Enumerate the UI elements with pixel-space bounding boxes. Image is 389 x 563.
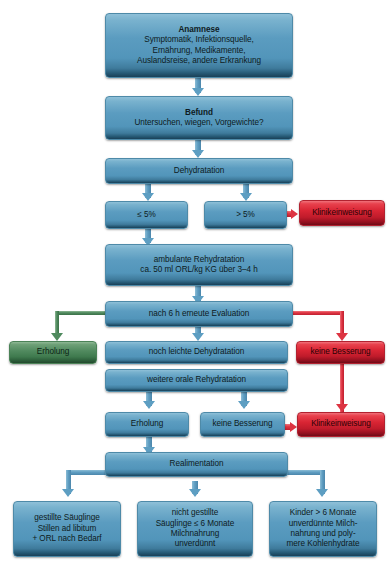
node-realimentation-label: Realimentation: [109, 459, 284, 469]
node-erholung-2[interactable]: Erholung: [105, 412, 189, 437]
node-lte5[interactable]: ≤ 5%: [105, 201, 188, 229]
node-bottom-mid-line3: Milchnahrung: [171, 529, 220, 538]
node-weitere-orale-rehydratation[interactable]: weitere orale Rehydratation: [105, 369, 288, 392]
arrowhead-dehydratation-lte5: [142, 193, 154, 201]
flowchart-canvas: Anamnese Symptomatik, Infektionsquelle, …: [0, 0, 389, 563]
node-keine-besserung-right[interactable]: keine Besserung: [296, 341, 385, 364]
node-anamnese-line1: Symptomatik, Infektionsquelle,: [144, 35, 254, 44]
node-dehydratation-label: Dehydratation: [109, 166, 289, 176]
node-bottom-left-line3: + ORL nach Bedarf: [32, 534, 101, 543]
node-nicht-gestillte-saeuglinge[interactable]: nicht gestillte Säuglinge ≤ 6 Monate Mil…: [137, 501, 253, 557]
node-klinikeinweisung-2-label: Klinikeinweisung: [301, 419, 381, 429]
node-bottom-right-line4: mere Kohlenhydrate: [287, 539, 360, 548]
arrowhead-evaluation-keinebesserung: [336, 333, 348, 341]
arrowhead-evaluation-leichte: [192, 333, 204, 341]
node-befund-heading: Befund: [185, 108, 213, 117]
node-gt5-label: > 5%: [208, 210, 283, 220]
node-bottom-right-line1: Kinder > 6 Monate: [290, 508, 356, 517]
arrowhead-anamnese-befund: [192, 88, 204, 96]
node-klinikeinweisung-2[interactable]: Klinikeinweisung: [297, 412, 385, 437]
node-bottom-mid-line4: unverdünnt: [175, 539, 215, 548]
node-befund-line1: Untersuchen, wiegen, Vorgewichte?: [135, 118, 264, 127]
node-befund[interactable]: Befund Untersuchen, wiegen, Vorgewichte?: [105, 96, 293, 140]
node-gt5[interactable]: > 5%: [204, 201, 287, 229]
arrowhead-dehydratation-gt5: [240, 193, 252, 201]
node-erholung-left-label: Erholung: [13, 347, 93, 357]
node-evaluation[interactable]: nach 6 h erneute Evaluation: [105, 301, 293, 327]
node-erholung-left[interactable]: Erholung: [9, 341, 97, 364]
arrowhead-weitere-keinebesserung2: [238, 401, 250, 409]
node-weitere-orale-label: weitere orale Rehydratation: [109, 375, 284, 385]
node-dehydratation[interactable]: Dehydratation: [105, 158, 293, 184]
node-leichte-label: noch leichte Dehydratation: [109, 347, 284, 357]
node-bottom-left-line1: gestillte Säuglinge: [34, 513, 100, 522]
arrowhead-gt5-klinik: [291, 209, 298, 219]
arrowhead-weitere-erholung2: [143, 401, 155, 409]
arrowhead-realimentation-right: [316, 489, 328, 497]
arrowhead-befund-dehydratation: [192, 150, 204, 158]
node-bottom-right-line2: unverdünnte Milch-: [289, 519, 358, 528]
connector-evaluation-keinebesserung-horizontal: [288, 311, 344, 315]
node-keine-besserung-2-label: keine Besserung: [204, 419, 281, 429]
node-anamnese-heading: Anamnese: [178, 25, 219, 34]
arrowhead-keinebesserung-klinik2: [336, 404, 348, 412]
node-kinder-ueber-6-monate[interactable]: Kinder > 6 Monate unverdünnte Milch- nah…: [269, 501, 377, 557]
arrowhead-keinebesserung2-klinik2: [290, 422, 297, 432]
arrowhead-realimentation-mid: [189, 489, 201, 497]
node-bottom-left-line2: Stillen ad libitum: [38, 524, 97, 533]
node-bottom-mid-line2: Säuglinge ≤ 6 Monate: [156, 519, 235, 528]
node-leichte-dehydratation[interactable]: noch leichte Dehydratation: [105, 341, 288, 364]
node-realimentation[interactable]: Realimentation: [105, 452, 288, 477]
node-ambulante-line1: ambulante Rehydratation: [154, 255, 244, 264]
node-keine-besserung-2[interactable]: keine Besserung: [200, 412, 285, 437]
node-anamnese-line3: Auslandsreise, andere Erkrankung: [137, 56, 261, 65]
node-ambulante-line2: ca. 50 ml ORL/kg KG über 3–4 h: [140, 265, 257, 274]
connector-evaluation-erholung-horizontal: [55, 311, 110, 315]
node-klinikeinweisung-1[interactable]: Klinikeinweisung: [299, 200, 385, 226]
node-lte5-label: ≤ 5%: [109, 210, 184, 220]
node-erholung-2-label: Erholung: [109, 419, 185, 429]
node-anamnese-line2: Ernährung, Medikamente,: [152, 46, 245, 55]
node-klinikeinweisung-1-label: Klinikeinweisung: [303, 208, 381, 218]
arrowhead-realimentation-left: [62, 489, 74, 497]
node-keine-besserung-right-label: keine Besserung: [300, 347, 381, 357]
node-bottom-right-line3: nahrung und poly-: [290, 529, 355, 538]
node-evaluation-label: nach 6 h erneute Evaluation: [109, 309, 289, 319]
node-ambulante-rehydratation[interactable]: ambulante Rehydratation ca. 50 ml ORL/kg…: [105, 244, 293, 286]
arrowhead-evaluation-erholung: [51, 333, 63, 341]
node-anamnese[interactable]: Anamnese Symptomatik, Infektionsquelle, …: [105, 13, 293, 78]
node-gestillte-saeuglinge[interactable]: gestillte Säuglinge Stillen ad libitum +…: [13, 501, 121, 557]
node-bottom-mid-line1: nicht gestillte: [172, 508, 219, 517]
